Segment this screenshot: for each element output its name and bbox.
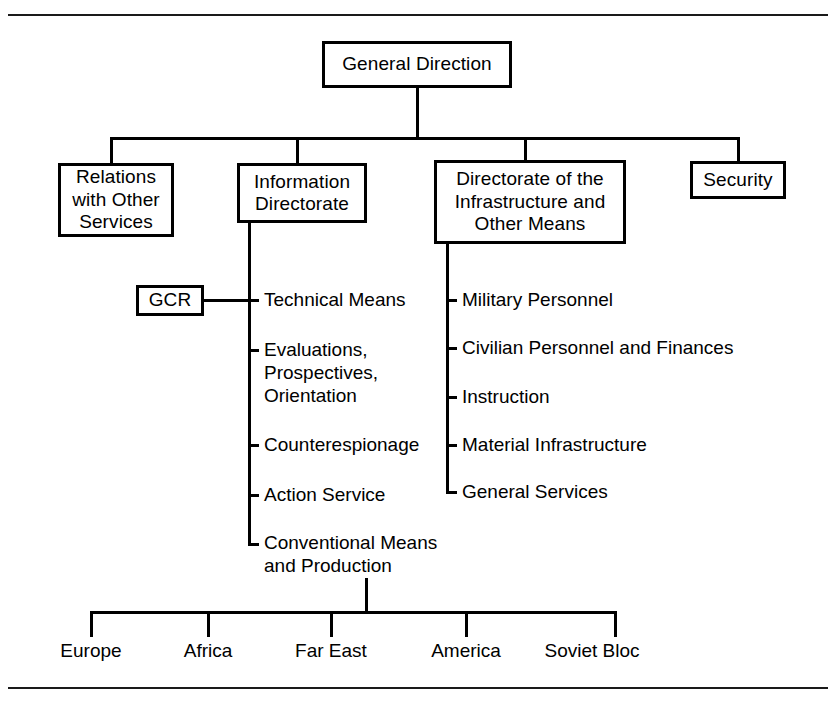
connector-tick-conventional-means [248, 543, 259, 546]
leaf-counterespionage[interactable]: Counterespionage [264, 433, 419, 456]
node-security-label: Security [699, 169, 776, 191]
node-relations-label: Relations with Other Services [61, 166, 171, 233]
connector-tick-material-infrastructure [446, 444, 457, 447]
connector-regions-stem [365, 578, 368, 614]
connector-information-spine [248, 223, 251, 546]
node-information-directorate[interactable]: Information Directorate [237, 163, 367, 223]
connector-drop-relations [110, 137, 113, 165]
connector-tick-europe [90, 611, 93, 637]
node-gcr-label: GCR [145, 289, 196, 311]
node-security[interactable]: Security [690, 161, 786, 199]
connector-tick-africa [207, 611, 210, 637]
leaf-technical-means[interactable]: Technical Means [264, 288, 406, 311]
top-divider-rule [8, 14, 828, 16]
region-far-east[interactable]: Far East [295, 640, 367, 662]
node-general-direction[interactable]: General Direction [322, 41, 512, 88]
org-chart-figure: General Direction Relations with Other S… [0, 0, 836, 708]
leaf-action-service[interactable]: Action Service [264, 483, 385, 506]
connector-tick-general-services [446, 491, 457, 494]
connector-tick-evaluations [248, 349, 259, 352]
connector-gcr-link [203, 299, 251, 302]
connector-drop-directorate [524, 137, 527, 162]
node-relations-with-other-services[interactable]: Relations with Other Services [58, 163, 174, 237]
connector-regions-bus [90, 611, 617, 614]
connector-infrastructure-spine [446, 244, 449, 494]
leaf-military-personnel[interactable]: Military Personnel [462, 288, 613, 311]
connector-tick-counterespionage [248, 444, 259, 447]
node-directorate-of-infrastructure[interactable]: Directorate of the Infrastructure and Ot… [434, 160, 626, 244]
connector-level2-bus [110, 137, 740, 140]
connector-tick-soviet-bloc [614, 611, 617, 637]
leaf-material-infrastructure[interactable]: Material Infrastructure [462, 433, 647, 456]
connector-tick-military-personnel [446, 299, 457, 302]
leaf-conventional-means-and-production[interactable]: Conventional Means and Production [264, 531, 437, 577]
region-america[interactable]: America [431, 640, 501, 662]
connector-root-stem [416, 88, 419, 139]
connector-drop-information [296, 137, 299, 165]
node-gcr[interactable]: GCR [136, 285, 204, 316]
leaf-civilian-personnel-and-finances[interactable]: Civilian Personnel and Finances [462, 336, 733, 359]
region-africa[interactable]: Africa [184, 640, 233, 662]
leaf-evaluations-prospectives-orientation[interactable]: Evaluations, Prospectives, Orientation [264, 338, 378, 408]
region-europe[interactable]: Europe [60, 640, 121, 662]
node-information-directorate-label: Information Directorate [240, 171, 364, 216]
connector-tick-action-service [248, 494, 259, 497]
bottom-divider-rule [8, 687, 828, 689]
leaf-instruction[interactable]: Instruction [462, 385, 550, 408]
connector-tick-america [465, 611, 468, 637]
node-directorate-label: Directorate of the Infrastructure and Ot… [437, 168, 623, 235]
connector-tick-far-east [330, 611, 333, 637]
connector-tick-civilian-personnel [446, 347, 457, 350]
region-soviet-bloc[interactable]: Soviet Bloc [544, 640, 639, 662]
connector-tick-instruction [446, 396, 457, 399]
node-general-direction-label: General Direction [338, 53, 496, 75]
leaf-general-services[interactable]: General Services [462, 480, 608, 503]
connector-drop-security [737, 137, 740, 163]
